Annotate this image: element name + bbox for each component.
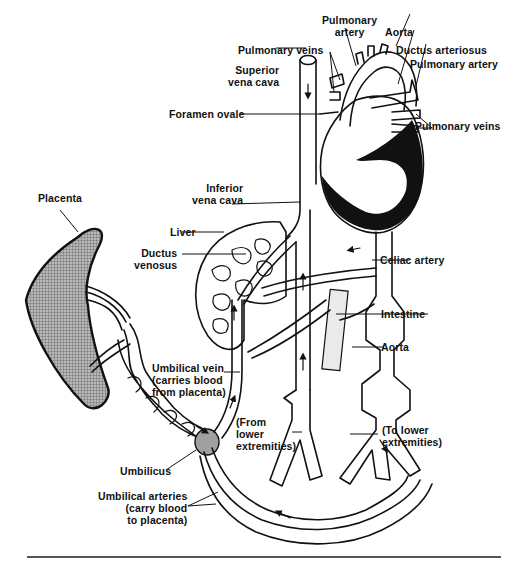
inferior-vena-cava <box>286 60 316 390</box>
label-aorta-top: Aorta <box>385 26 413 38</box>
label-superior-vena-cava: Superior vena cava <box>228 64 279 88</box>
label-pulmonary-veins-right: Pulmonary veins <box>415 120 501 132</box>
label-intestine: Intestine <box>381 308 425 320</box>
heart-ventricle-wall <box>322 120 423 230</box>
pulmonary-artery-right <box>370 80 418 108</box>
placenta-shape <box>26 229 109 408</box>
label-ductus-venosus: Ductus venosus <box>134 247 177 271</box>
label-umbilicus: Umbilicus <box>120 465 171 477</box>
label-umbilical-vein: Umbilical vein (carries blood from place… <box>152 362 226 398</box>
aortic-arch <box>340 52 417 126</box>
label-to-lower-extremities: (To lower extremities) <box>382 424 442 448</box>
label-from-lower-extremities: (From lower extremities) <box>236 416 296 452</box>
ductus-venosus <box>238 236 296 304</box>
label-umbilical-arteries: Umbilical arteries (carry blood to place… <box>98 490 187 526</box>
arch-branches <box>356 44 388 64</box>
label-inferior-vena-cava: Inferior vena cava <box>192 182 243 206</box>
umbilical-arteries <box>200 448 432 544</box>
superior-vena-cava <box>300 56 316 65</box>
umbilicus-shape <box>195 429 219 455</box>
label-placenta: Placenta <box>38 192 82 204</box>
celiac-artery <box>262 268 376 296</box>
label-aorta-abdominal: Aorta <box>381 341 409 353</box>
label-celiac-artery: Celiac artery <box>380 254 444 266</box>
label-foramen-ovale: Foramen ovale <box>169 108 244 120</box>
label-liver: Liver <box>170 226 196 238</box>
label-pulmonary-artery-top: Pulmonary artery <box>322 14 377 38</box>
label-ductus-arteriosus: Ductus arteriosus <box>396 44 487 56</box>
bottom-rule <box>27 556 501 558</box>
label-pulmonary-artery-right: Pulmonary artery <box>410 58 498 70</box>
intestine-shape <box>322 289 348 370</box>
label-pulmonary-veins-left: Pulmonary veins <box>238 44 324 56</box>
